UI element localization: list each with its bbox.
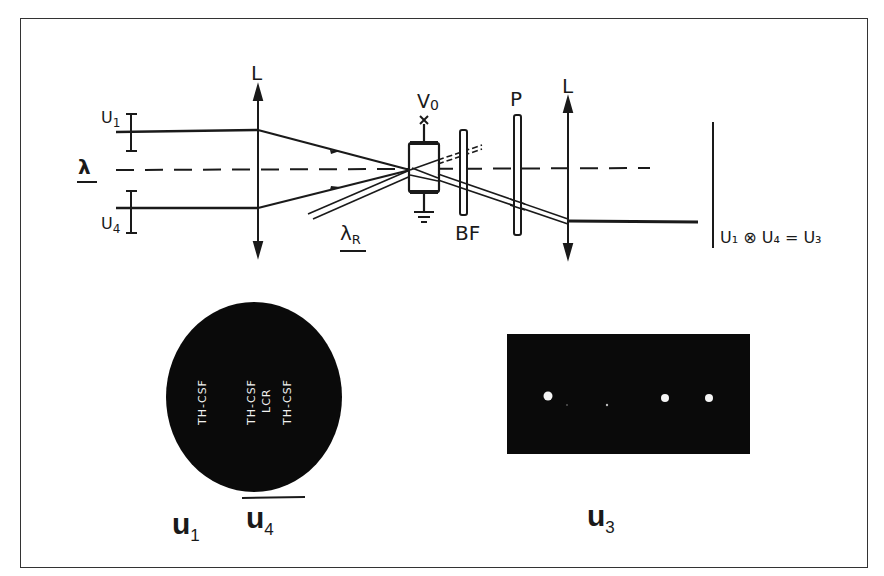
u4-underline (242, 497, 305, 498)
readout-wavelength-label: λR (340, 221, 361, 247)
optical-diagram: L L U1 U4 λ λR V0 BF P U₁ ⊗ U₄ = U₃ TH-C… (0, 0, 884, 576)
beam-u1-in (116, 130, 258, 132)
blocking-filter-bf (460, 130, 467, 215)
correlation-peak-3 (705, 394, 713, 402)
mask-text-col1: TH-CSF (245, 379, 258, 426)
correlation-output-photo (507, 334, 750, 454)
mask-text-left: TH-CSF (196, 379, 209, 426)
polarizer-p (514, 115, 521, 235)
input-aperture-u4 (126, 191, 137, 233)
wavelength-label: λ (78, 155, 91, 179)
optical-axis (116, 168, 650, 170)
input-u1-label: U1 (101, 108, 120, 130)
lens-left (254, 86, 262, 256)
filter-bf-label: BF (455, 221, 480, 245)
polarizer-p-label: P (510, 87, 522, 111)
correlation-equation: U₁ ⊗ U₄ = U₃ (720, 228, 822, 247)
input-u4-label: U4 (101, 214, 120, 236)
mask-text-col2: LCR (260, 389, 273, 413)
mask-text-col3: TH-CSF (281, 379, 294, 426)
beam-u1-converge (258, 130, 410, 170)
lens-right-label: L (562, 74, 574, 98)
voltage-terminal-icon (420, 116, 428, 124)
caption-u1: u1 (172, 507, 200, 545)
caption-u4: u4 (246, 501, 274, 539)
readout-beam (308, 170, 413, 219)
correlation-speck (606, 404, 608, 406)
correlation-peak-1 (544, 392, 553, 401)
correlation-speck (566, 404, 568, 406)
lens-left-label: L (251, 61, 263, 85)
ground-icon (414, 212, 434, 222)
voltage-label: V0 (417, 90, 439, 113)
beam-to-output (568, 221, 698, 222)
caption-u3: u3 (587, 499, 615, 537)
output-beam (438, 174, 568, 224)
correlation-peak-2 (661, 394, 669, 402)
lens-right (564, 98, 572, 258)
